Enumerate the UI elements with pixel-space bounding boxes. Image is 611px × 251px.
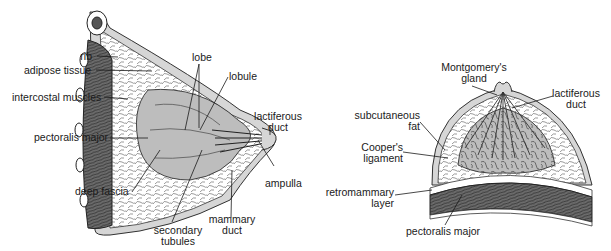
- label-lobule: lobule: [229, 71, 257, 82]
- label-lactiferous-duct-right-line2: duct: [566, 98, 586, 110]
- label-retromammary-layer: retromammary layer: [322, 187, 394, 209]
- label-ampulla: ampulla: [265, 178, 302, 189]
- label-intercostal-muscles: intercostal muscles: [12, 92, 101, 103]
- label-subcutaneous-fat-line2: fat: [408, 120, 420, 132]
- label-coopers-ligament: Cooper's ligament: [350, 142, 403, 164]
- label-coopers-ligament-line2: ligament: [363, 152, 403, 164]
- label-lactiferous-duct-left-line2: duct: [268, 121, 288, 133]
- label-adipose-tissue: adipose tissue: [24, 65, 91, 76]
- label-subcutaneous-fat: subcutaneous fat: [346, 110, 420, 132]
- label-mammary-duct-line2: duct: [222, 224, 242, 236]
- label-montgomerys-gland-line2: gland: [461, 72, 487, 84]
- label-retromammary-layer-line2: layer: [371, 197, 394, 209]
- label-secondary-tubules-line2: tubules: [161, 235, 195, 247]
- label-rib: rib: [40, 51, 92, 62]
- label-pectoralis-major-left: pectoralis major: [34, 132, 108, 143]
- label-lactiferous-duct-left: lactiferous duct: [248, 111, 308, 133]
- breast-anatomy-diagram: rib adipose tissue intercostal muscles p…: [0, 0, 611, 251]
- label-pectoralis-major-right: pectoralis major: [406, 226, 480, 237]
- label-lobe: lobe: [192, 52, 212, 63]
- label-lactiferous-duct-right: lactiferous duct: [545, 88, 607, 110]
- sagittal-section-graphic: [75, 11, 276, 235]
- label-deep-fascia: deep fascia: [75, 186, 129, 197]
- label-montgomerys-gland: Montgomery's gland: [434, 62, 514, 84]
- label-mammary-duct: mammary duct: [206, 214, 258, 236]
- label-secondary-tubules: secondary tubules: [150, 225, 206, 247]
